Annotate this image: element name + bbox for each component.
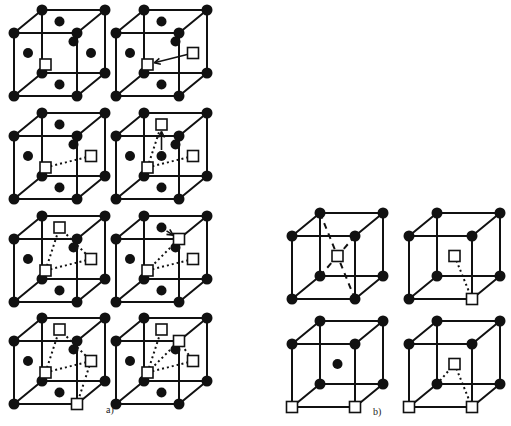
lattice-atom	[111, 131, 122, 142]
lattice-atom	[100, 376, 111, 387]
lattice-atom	[287, 339, 298, 350]
lattice-atom	[202, 171, 213, 182]
face-atom	[23, 48, 33, 58]
vacancy-site	[188, 254, 199, 265]
center-atom	[333, 359, 343, 369]
lattice-atom	[467, 339, 478, 350]
vacancy-site	[142, 59, 153, 70]
lattice-atom	[432, 379, 443, 390]
face-atom	[157, 286, 167, 296]
lattice-atom	[378, 271, 389, 282]
face-atom	[171, 37, 181, 47]
panel-b-label: b)	[373, 406, 381, 418]
unit-cell-a4	[111, 108, 213, 205]
vacancy-site	[188, 151, 199, 162]
vacancy-link	[455, 364, 473, 407]
lattice-atom	[9, 336, 20, 347]
face-atom	[55, 80, 65, 90]
face-atom	[69, 243, 79, 253]
vacancy-site	[174, 234, 185, 245]
lattice-atom	[432, 316, 443, 327]
vacancy-site	[40, 367, 51, 378]
unit-cell-a7	[9, 313, 111, 410]
vacancy-site	[86, 151, 97, 162]
lattice-atom	[378, 316, 389, 327]
face-atom	[55, 183, 65, 193]
vacancy-site	[142, 162, 153, 173]
lattice-atom	[495, 379, 506, 390]
face-atom	[157, 388, 167, 398]
vacancy-site	[86, 356, 97, 367]
lattice-atom	[495, 208, 506, 219]
lattice-atom	[111, 91, 122, 102]
face-atom	[157, 17, 167, 27]
lattice-atom	[100, 274, 111, 285]
vacancy-link	[46, 361, 92, 373]
lattice-atom	[9, 399, 20, 410]
lattice-atom	[100, 108, 111, 119]
lattice-atom	[174, 297, 185, 308]
lattice-atom	[350, 231, 361, 242]
lattice-atom	[202, 5, 213, 16]
lattice-atom	[315, 316, 326, 327]
lattice-atom	[287, 294, 298, 305]
lattice-atom	[139, 211, 150, 222]
face-atom	[23, 254, 33, 264]
lattice-atom	[202, 274, 213, 285]
vacancy-link	[148, 156, 194, 168]
vacancy-link	[148, 330, 162, 373]
lattice-atom	[315, 379, 326, 390]
vacancy-site	[467, 402, 478, 413]
vacancy-site	[142, 265, 153, 276]
lattice-atom	[174, 194, 185, 205]
face-atom	[69, 37, 79, 47]
face-atom	[157, 183, 167, 193]
lattice-atom	[37, 108, 48, 119]
face-atom	[171, 140, 181, 150]
face-atom	[125, 356, 135, 366]
vacancy-link	[46, 259, 92, 271]
lattice-atom	[139, 5, 150, 16]
lattice-atom	[139, 313, 150, 324]
lattice-atom	[72, 91, 83, 102]
lattice-atom	[404, 339, 415, 350]
vacancy-site	[156, 119, 167, 130]
unit-cell-b1	[287, 208, 389, 305]
vacancy-site	[54, 222, 65, 233]
vacancy-site	[156, 324, 167, 335]
lattice-atom	[9, 297, 20, 308]
lattice-atom	[111, 336, 122, 347]
body-diagonal	[320, 213, 338, 256]
migrating-atom	[157, 151, 167, 161]
vacancy-link	[455, 256, 473, 299]
vacancy-site	[287, 402, 298, 413]
vacancy-site	[449, 359, 460, 370]
vacancy-site	[467, 294, 478, 305]
lattice-atom	[111, 194, 122, 205]
vacancy-site	[188, 356, 199, 367]
vacancy-link	[148, 259, 194, 271]
vacancy-link	[148, 361, 194, 373]
lattice-atom	[495, 316, 506, 327]
lattice-atom	[111, 234, 122, 245]
face-atom	[157, 223, 167, 233]
lattice-atom	[202, 108, 213, 119]
lattice-atom	[9, 28, 20, 39]
unit-cell-b4	[404, 316, 506, 413]
face-atom	[125, 151, 135, 161]
face-atom	[125, 48, 135, 58]
lattice-atom	[495, 271, 506, 282]
unit-cell-a1	[9, 5, 111, 102]
unit-cell-a8	[111, 313, 213, 410]
lattice-atom	[111, 28, 122, 39]
lattice-atom	[432, 208, 443, 219]
face-atom	[86, 48, 96, 58]
lattice-atom	[315, 271, 326, 282]
lattice-atom	[100, 171, 111, 182]
lattice-atom	[404, 294, 415, 305]
vacancy-link	[46, 156, 92, 168]
vacancy-site	[188, 48, 199, 59]
vacancy-site	[86, 254, 97, 265]
lattice-atom	[174, 91, 185, 102]
lattice-atom	[315, 208, 326, 219]
